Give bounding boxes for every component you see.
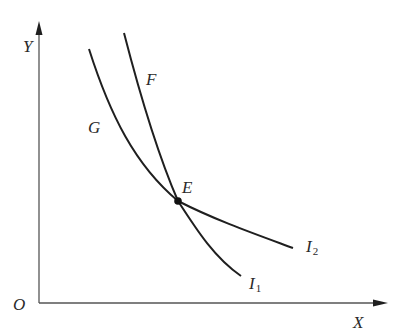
curve-label-F: F	[146, 71, 156, 88]
origin-label: O	[13, 296, 25, 313]
curve-I1	[89, 49, 241, 276]
curve-label-G: G	[88, 119, 100, 136]
curve-label-I1-subscript: 1	[256, 282, 262, 294]
point-label-E: E	[182, 179, 192, 196]
diagram-canvas	[0, 0, 399, 333]
curve-label-I1-main: I	[249, 274, 255, 293]
curve-I2	[124, 33, 293, 248]
curve-label-I1: I1	[249, 275, 261, 294]
x-axis-arrow-icon	[373, 300, 388, 307]
y-axis	[36, 21, 43, 303]
curve-label-I2-main: I	[306, 237, 312, 256]
intersection-point-E	[174, 197, 182, 205]
curve-label-I2-subscript: 2	[313, 245, 319, 257]
y-axis-arrow-icon	[36, 21, 43, 35]
y-axis-label: Y	[23, 38, 32, 55]
x-axis-label: X	[353, 314, 363, 331]
curve-label-I2: I2	[306, 238, 318, 257]
indifference-curve-diagram: Y O X G F E I1 I2	[0, 0, 399, 333]
x-axis	[39, 300, 388, 307]
